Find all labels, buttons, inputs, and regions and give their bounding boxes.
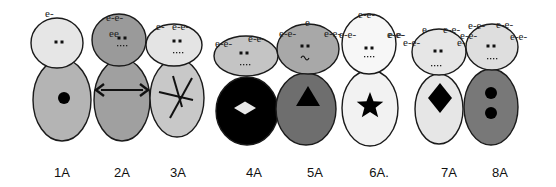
- figure-1a: e-1A: [31, 7, 91, 180]
- eye-icon: [246, 52, 249, 55]
- electron-label: e-e-: [460, 29, 477, 41]
- figure-7a: e-e-ee-e-e-e-e-e-7A: [388, 23, 474, 180]
- group-label: 2A: [114, 165, 130, 180]
- dot-icon: [58, 92, 70, 104]
- electron-label: e-e-: [358, 8, 375, 20]
- electron-label: e-e-: [403, 36, 420, 48]
- eye-icon: [434, 50, 437, 53]
- body-ellipse: [150, 59, 204, 137]
- eye-icon: [179, 40, 182, 43]
- electron-label: ee: [109, 27, 119, 39]
- electron-label: e-e-: [279, 27, 296, 39]
- electron-label: e-e-: [443, 23, 460, 35]
- electron-dot-figures-diagram: e-1Ae-e-ee2Ae-e-e-3Ae-e-e-e-4Aee-e-e-e-5…: [0, 0, 556, 187]
- eye-icon: [493, 45, 496, 48]
- electron-label: e-e-: [339, 28, 356, 40]
- eye-icon: [301, 45, 304, 48]
- figure-4a: e-e-e-e-4A: [214, 32, 278, 180]
- electron-label: e-: [156, 20, 165, 32]
- eye-icon: [61, 41, 64, 44]
- electron-label: e-e-: [510, 30, 527, 42]
- group-label: 5A: [307, 165, 323, 180]
- body-ellipse: [94, 59, 150, 141]
- electron-label: e-e-: [496, 18, 513, 30]
- eye-icon: [173, 40, 176, 43]
- electron-label: e: [422, 23, 427, 35]
- group-label: 4A: [246, 165, 262, 180]
- eye-icon: [124, 37, 127, 40]
- electron-label: e: [305, 16, 310, 28]
- electron-label: e-e-: [106, 11, 123, 23]
- diagram-canvas: e-1Ae-e-ee2Ae-e-e-3Ae-e-e-e-4Aee-e-e-e-5…: [0, 0, 556, 187]
- electron-label: e-e-: [248, 32, 265, 44]
- group-label: 6A.: [369, 165, 389, 180]
- eye-icon: [365, 47, 368, 50]
- electron-label: e-e-: [388, 28, 405, 40]
- head-ellipse: [342, 14, 396, 74]
- eye-icon: [307, 45, 310, 48]
- figure-2a: e-e-ee2A: [92, 11, 150, 180]
- electron-label: e-e-: [215, 37, 232, 49]
- eye-icon: [240, 52, 243, 55]
- eye-icon: [487, 45, 490, 48]
- eye-icon: [55, 41, 58, 44]
- figure-3a: e-e-e-3A: [146, 20, 204, 180]
- group-label: 8A: [492, 165, 508, 180]
- eye-icon: [371, 47, 374, 50]
- body-ellipse: [276, 73, 336, 145]
- group-label: 1A: [54, 165, 70, 180]
- figure-8a: e-e-e-e-e-e-e-e-8A: [460, 18, 527, 180]
- group-label: 7A: [441, 165, 457, 180]
- eye-icon: [440, 50, 443, 53]
- electron-label: e-e-: [172, 20, 189, 32]
- group-label: 3A: [170, 165, 186, 180]
- figure-5a: ee-e-e-e-5A: [276, 16, 341, 180]
- electron-label: e-: [45, 7, 54, 19]
